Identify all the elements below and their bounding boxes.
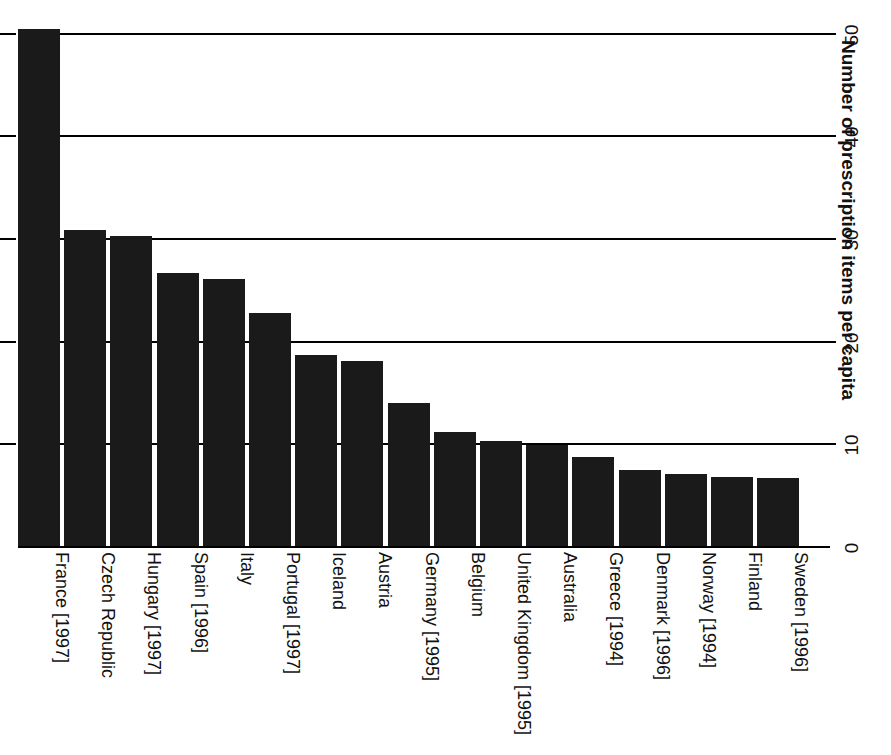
bar [64, 230, 106, 548]
tick-stub-40 [0, 135, 16, 137]
category-label: Czech Republic [99, 552, 117, 752]
category-label: Denmark [1996] [654, 552, 672, 752]
tick-stub-30 [0, 238, 16, 240]
tick-stub-20 [0, 341, 16, 343]
bar [711, 477, 753, 548]
bar [295, 355, 337, 548]
category-label: Norway [1994] [700, 552, 718, 752]
category-label: Hungary [1997] [145, 552, 163, 752]
category-label: Finland [746, 552, 764, 752]
bar [388, 403, 430, 548]
category-label: United Kingdom [1995] [515, 552, 533, 752]
plot-area [0, 0, 836, 548]
category-label: Portugal [1997] [284, 552, 302, 752]
category-label: Spain [1996] [192, 552, 210, 752]
bar [341, 361, 383, 548]
bar [757, 478, 799, 548]
bar [157, 273, 199, 548]
bar [572, 457, 614, 548]
bar [619, 470, 661, 548]
bar [18, 29, 60, 548]
category-axis-labels: France [1997]Czech RepublicHungary [1997… [0, 548, 836, 755]
category-label: Australia [561, 552, 579, 752]
tick-stub-50 [0, 33, 16, 35]
category-label: Germany [1995] [423, 552, 441, 752]
bar [249, 313, 291, 548]
category-label: Austria [376, 552, 394, 752]
value-axis-title: Number of prescription items per capita [839, 40, 858, 510]
bar [665, 474, 707, 548]
tick-stub-10 [0, 443, 16, 445]
bar [434, 432, 476, 548]
bar [480, 441, 522, 548]
chart-figure: 01020304050 Number of prescription items… [0, 0, 891, 755]
gridline-50 [18, 33, 836, 35]
category-label: Greece [1994] [607, 552, 625, 752]
category-label: Italy [238, 552, 256, 752]
category-label: Sweden [1996] [792, 552, 810, 752]
category-label: Belgium [469, 552, 487, 752]
bar [526, 445, 568, 548]
category-label: Iceland [330, 552, 348, 752]
category-label: France [1997] [53, 552, 71, 752]
value-tick-label-0: 0 [842, 533, 861, 563]
gridline-40 [18, 135, 836, 137]
bar [110, 236, 152, 548]
bar [203, 279, 245, 548]
